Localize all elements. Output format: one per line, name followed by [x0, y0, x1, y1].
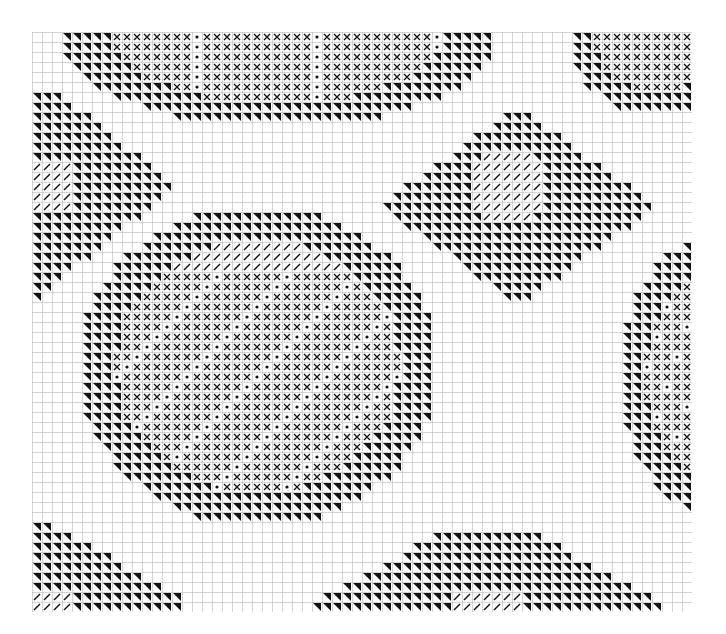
pattern-canvas — [32, 32, 692, 612]
pattern-chart-grid — [32, 32, 692, 612]
